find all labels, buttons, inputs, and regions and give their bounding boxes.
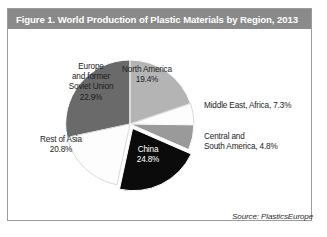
pie-label-central-and-south-america: Central and South America, 4.8% xyxy=(204,132,316,152)
figure-container: Figure 1. World Production of Plastic Ma… xyxy=(0,0,327,237)
pie-label-rest-of-asia: Rest of Asia 20.8% xyxy=(25,135,97,155)
pie-chart-svg xyxy=(8,29,311,220)
pie-label-rest-of-asia-value: 20.8% xyxy=(25,145,97,155)
pie-label-central-and-south-america-l2: South America, 4.8% xyxy=(204,142,316,152)
figure-title-bar: Figure 1. World Production of Plastic Ma… xyxy=(8,9,311,29)
pie-label-europe-l3: Soviet Union xyxy=(53,82,129,92)
pie-label-central-and-south-america-l1: Central and xyxy=(204,132,316,142)
pie-label-china-name: China xyxy=(118,145,178,155)
pie-label-europe-l1: Europe xyxy=(53,62,129,72)
pie-label-china: China 24.8% xyxy=(118,145,178,165)
pie-label-middle-east-africa-text: Middle East, Africa, 7.3% xyxy=(204,101,314,111)
pie-label-europe-and-former-soviet-union: Europe and former Soviet Union 22.9% xyxy=(53,62,129,103)
pie-chart: North America 19.4% Middle East, Africa,… xyxy=(8,29,311,220)
figure-title: Figure 1. World Production of Plastic Ma… xyxy=(8,14,298,25)
pie-label-europe-l2: and former xyxy=(53,72,129,82)
source-note: Source: PlasticsEurope xyxy=(232,212,313,221)
pie-label-china-value: 24.8% xyxy=(118,155,178,165)
pie-label-europe-value: 22.9% xyxy=(53,93,129,103)
pie-label-middle-east-africa: Middle East, Africa, 7.3% xyxy=(204,101,314,111)
pie-label-rest-of-asia-name: Rest of Asia xyxy=(25,135,97,145)
